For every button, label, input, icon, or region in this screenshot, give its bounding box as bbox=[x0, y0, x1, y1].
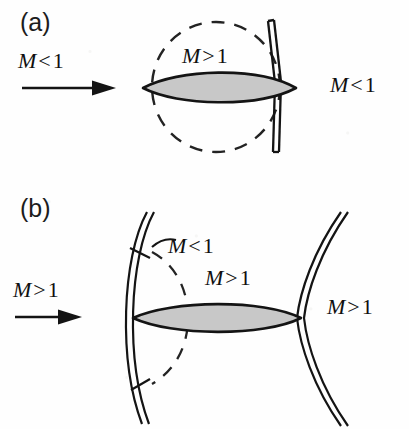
panel-b-airfoil bbox=[133, 304, 301, 332]
figure-canvas: (a) M<1 M<1 M>1 (b) M>1 M> bbox=[0, 0, 409, 429]
panel-b-graphics bbox=[0, 0, 409, 429]
panel-b-flow-arrow-icon bbox=[15, 310, 82, 325]
panel-b-trailing-shock-icon bbox=[297, 212, 348, 426]
